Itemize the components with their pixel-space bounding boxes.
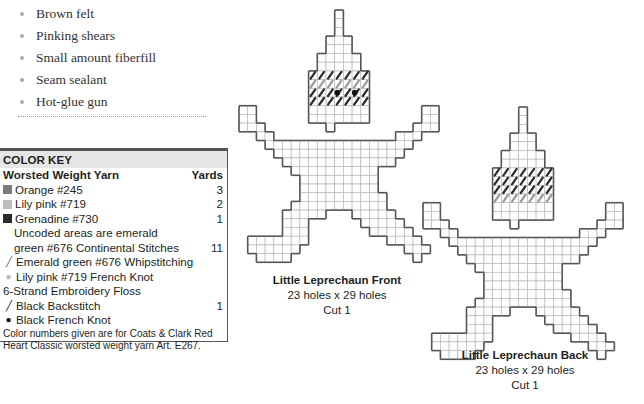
front-cut: Cut 1: [262, 303, 412, 318]
pattern-diagrams: [0, 0, 644, 404]
back-cut: Cut 1: [450, 378, 600, 393]
front-pattern-grid: [239, 10, 439, 262]
front-size: 23 holes x 29 holes: [262, 288, 412, 303]
front-title: Little Leprechaun Front: [262, 273, 412, 288]
back-pattern-grid: [423, 107, 623, 359]
back-caption: Little Leprechaun Back 23 holes x 29 hol…: [450, 348, 600, 393]
back-size: 23 holes x 29 holes: [450, 363, 600, 378]
back-title: Little Leprechaun Back: [450, 348, 600, 363]
front-caption: Little Leprechaun Front 23 holes x 29 ho…: [262, 273, 412, 318]
